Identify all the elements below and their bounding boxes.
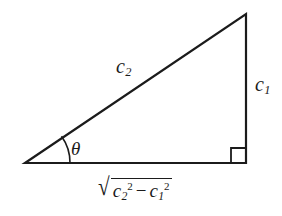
minus-operator: − — [133, 180, 150, 201]
right-triangle-figure: c2 c1 θ √ c22−c12 — [0, 0, 282, 216]
radicand-term2-base: c — [150, 180, 158, 201]
hypotenuse-label-base: c — [116, 55, 125, 77]
radicand-term2-superscript: 2 — [164, 180, 170, 192]
angle-label: θ — [71, 139, 80, 158]
angle-arc-marker — [62, 136, 71, 163]
opposite-side-label-base: c — [255, 73, 264, 95]
triangle-outline — [25, 14, 246, 163]
radicand-term1-subscript: 2 — [121, 190, 127, 203]
radical-expression: √ c22−c12 — [97, 176, 172, 200]
adjacent-side-label: √ c22−c12 — [97, 176, 172, 200]
right-angle-marker — [231, 148, 246, 163]
radicand-term1-base: c — [113, 180, 121, 201]
radical-sign-icon: √ — [98, 175, 110, 199]
opposite-side-label-subscript: 1 — [264, 83, 270, 97]
radicand-term1-superscript: 2 — [127, 180, 133, 192]
radicand-term2-subscript: 1 — [158, 190, 164, 203]
hypotenuse-label-subscript: 2 — [125, 65, 131, 79]
radicand: c22−c12 — [111, 178, 172, 200]
opposite-side-label: c1 — [255, 74, 270, 94]
hypotenuse-label: c2 — [116, 56, 131, 76]
